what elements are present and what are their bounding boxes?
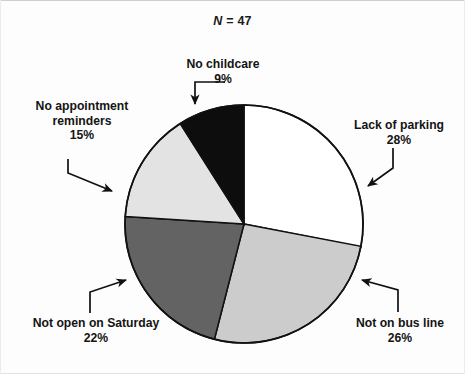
slice-label-no-appointment-reminders-percent: 15%	[12, 128, 152, 143]
leader-no-appointment-reminders	[68, 159, 112, 191]
leader-not-open-on-saturday	[90, 280, 126, 313]
slice-label-no-appointment-reminders-line2: reminders	[53, 114, 112, 128]
slice-label-not-on-bus-line-text: Not on bus line	[356, 316, 444, 330]
slice-label-lack-of-parking: Lack of parking 28%	[337, 118, 461, 147]
slice-label-not-on-bus-line: Not on bus line 26%	[340, 316, 460, 345]
slice-label-lack-of-parking-percent: 28%	[337, 133, 461, 148]
slice-label-no-appointment-reminders-line1: No appointment	[36, 99, 129, 113]
slice-label-not-open-on-saturday: Not open on Saturday 22%	[14, 316, 178, 345]
leader-not-on-bus-line	[362, 280, 398, 312]
leader-lack-of-parking	[368, 148, 393, 186]
slice-label-not-on-bus-line-percent: 26%	[340, 331, 460, 346]
slice-label-no-appointment-reminders: No appointment reminders 15%	[12, 99, 152, 143]
slice-label-no-childcare-percent: 9%	[157, 72, 289, 87]
slice-label-not-open-on-saturday-percent: 22%	[14, 331, 178, 346]
chart-page: N = 47	[0, 0, 465, 374]
slice-label-not-open-on-saturday-text: Not open on Saturday	[33, 316, 160, 330]
slice-label-lack-of-parking-text: Lack of parking	[354, 118, 444, 132]
slice-label-no-childcare: No childcare 9%	[157, 57, 289, 86]
slice-label-no-childcare-text: No childcare	[186, 57, 259, 71]
